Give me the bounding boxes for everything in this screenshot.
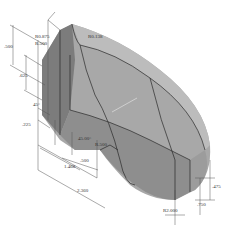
dim-bottom-radius: R2.000 (163, 208, 178, 213)
dim-right-width: .750 (197, 202, 206, 207)
dim-inner-radius: R.500 (95, 142, 108, 147)
dim-top-radius-2: R.500 (35, 41, 48, 46)
dim-top-radius-1: R0.875 (35, 34, 50, 39)
dim-left-mid: .625 (19, 73, 28, 78)
dim-left-height: .500 (4, 44, 13, 49)
dim-length-total: 2.360 (77, 188, 89, 193)
dim-length-mid: 1.468 (64, 164, 76, 169)
dim-step: .500 (80, 158, 89, 163)
dim-left-chamfer: 45° (33, 102, 40, 107)
part-body (42, 24, 210, 200)
dim-right-height: .475 (212, 184, 221, 189)
dim-angle: 45.00° (78, 136, 91, 141)
isometric-part-drawing: R0.875 R.500 R0.138 .500 .625 45° .225 4… (0, 0, 234, 236)
dim-left-offset: .225 (22, 122, 31, 127)
dim-top-right-radius: R0.138 (88, 34, 103, 39)
